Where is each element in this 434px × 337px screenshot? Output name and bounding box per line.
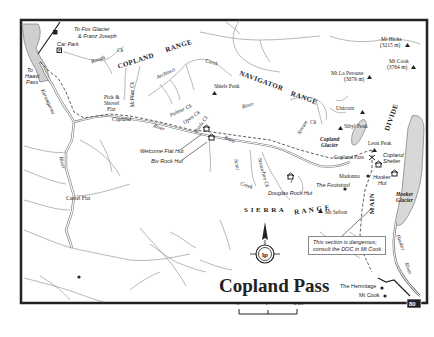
- scale-label-4km: 4 km: [294, 301, 304, 306]
- label-sibyl-peak: Sibyl Peak: [344, 124, 368, 130]
- map-frame: [21, 20, 427, 303]
- scale-label-2: 2: [266, 301, 269, 306]
- label-copland-glacier-2: Glacier: [321, 143, 338, 149]
- publisher-logo: lp: [250, 245, 280, 263]
- label-rough-ck-2: Ck: [117, 48, 123, 54]
- label-car-park: Car Park: [57, 42, 79, 48]
- label-main-divide-1: MAIN: [369, 193, 376, 214]
- scale-bar: [239, 309, 297, 314]
- label-scott: Scott: [233, 159, 240, 171]
- label-ck-2: Ck: [310, 120, 316, 126]
- warning-note: This section is dangerous; consult the D…: [308, 236, 386, 255]
- copland-river: [74, 116, 350, 167]
- label-hooker-glacier-2: Glacier: [396, 198, 413, 204]
- label-shiels-peak: Shiels Peak: [214, 84, 240, 90]
- label-mt-cook-2: (3764 m): [387, 65, 407, 71]
- label-biv-rock-hut: Biv Rock Hut: [151, 159, 183, 165]
- label-sierra-range-1: S I E R R A: [244, 207, 284, 214]
- map-title: Copland Pass: [219, 276, 329, 295]
- label-cassel-flat: Cassel Flat: [66, 196, 90, 202]
- scale-label-0: 0: [237, 301, 240, 306]
- label-mt-hicks-2: (3215 m): [380, 43, 400, 49]
- label-hooker-hut-2: Hut: [378, 181, 387, 187]
- label-douglas-rock-hut: Douglas Rock Hut: [268, 191, 312, 197]
- label-mt-la-perouse-2: (3079 m): [344, 77, 364, 83]
- label-welcome-flat-hut: Welcome Flat Hut: [140, 149, 184, 155]
- hooker-glacier: [395, 116, 424, 226]
- label-mcphee-ck: McPhee Ck: [130, 82, 136, 108]
- hooker-river: [394, 222, 420, 296]
- label-leon-peak: Leon Peak: [368, 141, 391, 147]
- label-mt-cook-village: Mt Cook: [359, 293, 379, 299]
- warning-note-line-2: consult the DOC in Mt Cook: [313, 246, 381, 253]
- road-marker-icon: [53, 30, 58, 35]
- svg-text:lp: lp: [262, 251, 268, 259]
- label-unicorn: Unicorn: [336, 106, 354, 112]
- label-the-hermitage: The Hermitage: [340, 284, 376, 290]
- streams: [24, 20, 420, 302]
- label-copland: Copland: [112, 117, 131, 123]
- label-to-fox-glacier-1: To Fox Glacier: [74, 27, 110, 33]
- warning-note-line-1: This section is dangerous;: [313, 239, 381, 246]
- label-copland-pass: Copland Pass: [334, 155, 364, 161]
- label-pick-shovel-3: Flat: [107, 107, 116, 113]
- label-to-haast-3: Pass: [26, 80, 38, 86]
- north-arrow: [262, 222, 268, 248]
- label-madonna: Madonna: [339, 174, 360, 180]
- route-badge-label: 80: [409, 301, 416, 307]
- label-the-footstool: The Footstool: [316, 183, 350, 189]
- label-copland-shelter-2: Shelter: [383, 159, 400, 165]
- label-to-fox-glacier-2: & Franz Joseph: [78, 34, 117, 40]
